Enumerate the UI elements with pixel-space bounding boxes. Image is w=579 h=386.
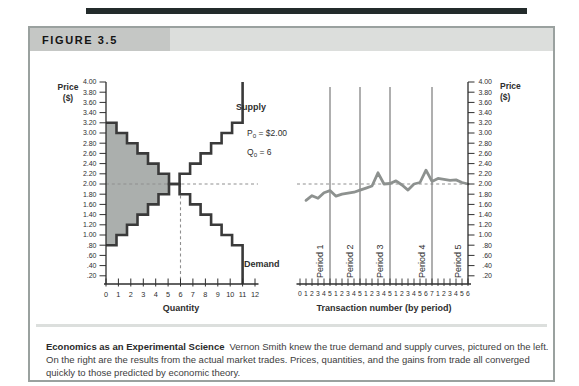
quantity-tick-label: 6 — [178, 290, 182, 299]
price-tick-label-right: 3.60 — [478, 99, 492, 106]
quantity-tick-label: 5 — [166, 290, 170, 299]
transaction-tick-label: 3 — [448, 290, 452, 297]
price-tick-label: 2.40 — [83, 160, 97, 167]
figure-header-fill — [170, 28, 553, 51]
transaction-tick-label: 3 — [406, 290, 410, 297]
transaction-tick-label: 2 — [400, 290, 404, 297]
quantity-tick-label: 7 — [191, 290, 195, 299]
period-label: Period 3 — [375, 244, 385, 278]
right-price-axis-title: Price — [500, 81, 521, 91]
price-tick-label: 3.40 — [83, 109, 97, 116]
transaction-tick-label: 2 — [370, 290, 374, 297]
quantity-axis-title: Quantity — [163, 303, 200, 313]
transaction-tick-label: 2 — [310, 290, 314, 297]
figure-label: FIGURE 3.5 — [30, 28, 170, 51]
quantity-tick-label: 2 — [129, 290, 133, 299]
price-tick-label: 1.20 — [83, 221, 97, 228]
price-tick-label: 3.60 — [83, 99, 97, 106]
price-tick-label: 2.80 — [83, 140, 97, 147]
price-tick-label: .40 — [87, 262, 97, 269]
right-price-axis-title-units: ($) — [500, 92, 511, 102]
price-tick-label: 3.80 — [83, 89, 97, 96]
price-tick-label: 4.00 — [83, 78, 97, 85]
price-tick-label-right: .40 — [482, 262, 492, 269]
price-tick-label-right: 3.00 — [478, 129, 492, 136]
price-tick-label: 2.60 — [83, 150, 97, 157]
quantity-tick-label: 10 — [226, 290, 234, 299]
supply-label: Supply — [236, 102, 266, 112]
price-tick-label: 1.60 — [83, 201, 97, 208]
transaction-tick-label: 4 — [454, 290, 458, 297]
period-label: Period 2 — [345, 244, 355, 278]
caption-divider — [36, 324, 547, 327]
top-rule — [86, 8, 527, 14]
transaction-axis-title: Transaction number (by period) — [316, 303, 451, 313]
price-tick-label: .80 — [87, 242, 97, 249]
price-tick-label-right: .60 — [482, 252, 492, 259]
transaction-tick-label: 3 — [376, 290, 380, 297]
price-tick-label: .20 — [87, 272, 97, 279]
transaction-tick-label: 1 — [334, 290, 338, 297]
quantity-tick-label: 11 — [239, 290, 247, 299]
price-tick-label-right: .80 — [482, 242, 492, 249]
price-tick-label: .60 — [87, 252, 97, 259]
transaction-tick-label: 4 — [322, 290, 326, 297]
transaction-tick-label: 3 — [316, 290, 320, 297]
quantity-tick-label: 3 — [141, 290, 145, 299]
price-tick-label: 3.00 — [83, 129, 97, 136]
price-tick-label-right: 1.80 — [478, 191, 492, 198]
price-tick-label: 1.40 — [83, 211, 97, 218]
transaction-tick-label: 6 — [424, 290, 428, 297]
transaction-tick-label: 1 — [304, 290, 308, 297]
price-tick-label: 2.20 — [83, 170, 97, 177]
left-price-axis-title: Price — [58, 82, 79, 92]
price-tick-label-right: 1.60 — [478, 201, 492, 208]
price-tick-label: 1.80 — [83, 191, 97, 198]
transaction-tick-label: 0 — [298, 290, 302, 297]
left-price-axis-title-units: ($) — [63, 93, 74, 103]
period-label: Period 1 — [315, 244, 325, 278]
quantity-tick-label: 0 — [104, 290, 108, 299]
transaction-tick-label: 1 — [394, 290, 398, 297]
transaction-tick-label: 4 — [382, 290, 386, 297]
price-tick-label-right: 1.40 — [478, 211, 492, 218]
price-tick-label-right: 3.80 — [478, 89, 492, 96]
textbook-figure-page: FIGURE 3.5 4.003.803.603.403.203.002.802… — [0, 0, 579, 386]
figure-header: FIGURE 3.5 — [30, 28, 553, 51]
price-tick-label: 2.00 — [83, 180, 97, 187]
price-tick-label-right: 2.20 — [478, 170, 492, 177]
demand-label: Demand — [244, 259, 280, 269]
transaction-tick-label: 5 — [460, 290, 464, 297]
period-label: Period 4 — [417, 244, 427, 278]
price-tick-label-right: 2.60 — [478, 150, 492, 157]
transaction-tick-label: 1 — [364, 290, 368, 297]
p0-annotation: P0 = $2.00 — [247, 128, 287, 139]
transaction-tick-label: 5 — [388, 290, 392, 297]
price-tick-label: 1.00 — [83, 231, 97, 238]
transaction-tick-label: 4 — [412, 290, 416, 297]
quantity-tick-label: 9 — [216, 290, 220, 299]
supply-demand-experiment-chart: 4.003.803.603.403.203.002.802.602.402.20… — [30, 51, 553, 327]
figure-box: FIGURE 3.5 4.003.803.603.403.203.002.802… — [28, 26, 555, 382]
price-tick-label-right: 2.40 — [478, 160, 492, 167]
transaction-tick-label: 5 — [358, 290, 362, 297]
quantity-tick-label: 12 — [251, 290, 259, 299]
transaction-tick-label: 2 — [442, 290, 446, 297]
price-tick-label-right: 1.00 — [478, 231, 492, 238]
caption-title: Economics as an Experimental Science — [46, 341, 224, 352]
transaction-tick-label: 5 — [328, 290, 332, 297]
price-tick-label-right: 3.20 — [478, 119, 492, 126]
quantity-tick-label: 4 — [154, 290, 158, 299]
price-tick-label-right: 2.00 — [478, 180, 492, 187]
figure-caption: Economics as an Experimental ScienceVern… — [46, 340, 552, 379]
price-tick-label-right: 4.00 — [478, 78, 492, 85]
transaction-tick-label: 4 — [352, 290, 356, 297]
transaction-tick-label: 1 — [436, 290, 440, 297]
q0-annotation: Q0 = 6 — [247, 147, 272, 158]
transaction-tick-label: 2 — [340, 290, 344, 297]
transaction-tick-label: 6 — [466, 290, 470, 297]
transaction-tick-label: 7 — [430, 290, 434, 297]
price-tick-label-right: 3.40 — [478, 109, 492, 116]
price-tick-label-right: 1.20 — [478, 221, 492, 228]
price-tick-label-right: .20 — [482, 272, 492, 279]
